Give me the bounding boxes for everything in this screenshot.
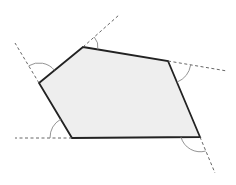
extension-line-right	[168, 61, 227, 71]
extension-line-top	[83, 15, 119, 47]
angle-arc-bottom-right	[181, 137, 206, 152]
angle-arc-right	[177, 65, 191, 82]
diagram-canvas	[0, 0, 236, 185]
angle-arc-left	[29, 63, 55, 70]
angle-arc-top	[94, 37, 98, 49]
angle-arc-bottom-left	[50, 119, 61, 138]
extension-line-bottom-right	[200, 137, 215, 173]
pentagon-shape	[39, 47, 200, 138]
pentagon-exterior-angles-diagram	[0, 0, 236, 185]
